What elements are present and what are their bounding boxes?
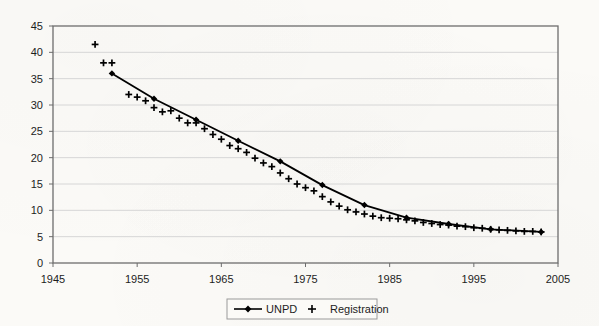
y-tick-label: 20	[31, 152, 43, 164]
registration-point	[100, 59, 107, 66]
registration-point	[109, 59, 116, 66]
unpd-point	[235, 138, 241, 144]
registration-point	[327, 199, 334, 206]
unpd-point	[445, 221, 451, 227]
x-tick-label: 1975	[293, 273, 317, 285]
registration-point	[277, 170, 284, 177]
registration-point	[311, 187, 318, 194]
registration-point	[369, 213, 376, 220]
y-tick-label: 5	[37, 231, 43, 243]
registration-point	[252, 155, 259, 162]
registration-point	[243, 149, 250, 156]
y-tick-label: 35	[31, 73, 43, 85]
unpd-point	[538, 229, 544, 235]
legend: UNPD Registration	[227, 299, 389, 319]
legend-label-unpd: UNPD	[266, 303, 297, 315]
unpd-line	[112, 73, 541, 232]
line-chart: 051015202530354045 194519551965197519851…	[0, 0, 599, 326]
y-tick-label: 10	[31, 204, 43, 216]
registration-point	[319, 193, 326, 200]
y-tick-label: 45	[31, 20, 43, 32]
unpd-point	[319, 182, 325, 188]
registration-point	[386, 215, 393, 222]
registration-point	[268, 163, 275, 170]
unpd-point	[487, 226, 493, 232]
registration-point	[226, 142, 233, 149]
gridlines	[53, 52, 558, 236]
registration-point	[184, 120, 191, 127]
y-tick-label: 25	[31, 125, 43, 137]
registration-point	[235, 145, 242, 152]
series-registration	[92, 41, 545, 235]
registration-point	[260, 160, 267, 167]
registration-point	[285, 175, 292, 182]
registration-point	[92, 41, 99, 48]
x-tick-label: 2005	[546, 273, 570, 285]
registration-point	[125, 91, 132, 98]
registration-point	[142, 97, 149, 104]
x-tick-label: 1995	[462, 273, 486, 285]
x-tick-label: 1985	[377, 273, 401, 285]
y-axis-tick-labels: 051015202530354045	[31, 20, 53, 269]
x-axis-tick-labels: 1945195519651975198519952005	[41, 263, 570, 285]
y-tick-label: 15	[31, 178, 43, 190]
y-tick-label: 0	[37, 257, 43, 269]
unpd-point	[193, 117, 199, 123]
chart-page: 051015202530354045 194519551965197519851…	[0, 0, 599, 326]
registration-point	[159, 108, 166, 115]
y-tick-label: 30	[31, 99, 43, 111]
registration-point	[210, 131, 217, 138]
registration-point	[361, 211, 368, 218]
registration-point	[353, 209, 360, 216]
registration-point	[294, 181, 301, 188]
registration-point	[336, 203, 343, 210]
x-tick-label: 1955	[125, 273, 149, 285]
registration-point	[134, 94, 141, 101]
x-tick-label: 1965	[209, 273, 233, 285]
registration-point	[176, 115, 183, 122]
registration-point	[344, 206, 351, 213]
legend-label-registration: Registration	[330, 303, 389, 315]
unpd-point	[361, 202, 367, 208]
registration-point	[302, 184, 309, 191]
registration-point	[378, 214, 385, 221]
x-tick-label: 1945	[41, 273, 65, 285]
registration-point	[218, 136, 225, 143]
y-tick-label: 40	[31, 46, 43, 58]
